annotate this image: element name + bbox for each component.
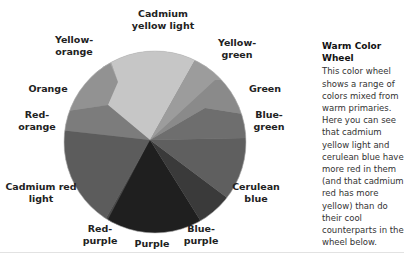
label-cerulean-blue: Cerulean blue: [232, 181, 280, 205]
label-cadmium-red-light: Cadmium red light: [5, 181, 76, 205]
label-blue-purple: Blue- purple: [184, 223, 219, 247]
caption: Warm Color Wheel This color wheel shows …: [322, 40, 404, 248]
caption-title: Warm Color Wheel: [322, 40, 404, 64]
color-wheel-figure: Cadmium yellow light Yellow- orange Yell…: [0, 0, 310, 256]
caption-body: This color wheel shows a range of colors…: [322, 65, 404, 248]
label-red-purple: Red- purple: [83, 223, 118, 247]
divider: [0, 252, 404, 253]
label-blue-green: Blue- green: [253, 109, 284, 133]
label-green: Green: [249, 83, 281, 95]
label-yellow-orange: Yellow- orange: [55, 34, 93, 58]
label-cadmium-yellow-light: Cadmium yellow light: [132, 8, 194, 32]
label-red-orange: Red- orange: [18, 109, 56, 133]
label-yellow-green: Yellow- green: [218, 37, 256, 61]
label-orange: Orange: [28, 83, 67, 95]
label-purple: Purple: [135, 238, 170, 250]
